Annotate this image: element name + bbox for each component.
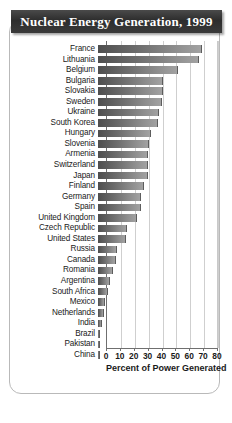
bar-category-label: Belgium: [9, 65, 98, 76]
bar-track: [98, 265, 209, 276]
bar-category-label: Bulgaria: [9, 76, 98, 87]
bar-track: [98, 65, 209, 76]
bar-row: Slovenia: [9, 139, 220, 150]
bar-track: [98, 255, 209, 266]
bar: [98, 182, 144, 190]
bar-row: Canada: [9, 255, 220, 266]
bar-row: Switzerland: [9, 160, 220, 171]
bar-track: [98, 55, 209, 66]
bar-track: [98, 118, 209, 129]
bar-track: [98, 244, 209, 255]
bar-row: Armenia: [9, 149, 220, 160]
bar-category-label: Slovenia: [9, 139, 98, 150]
bar: [98, 320, 102, 328]
bar-category-label: Armenia: [9, 149, 98, 160]
bar-category-label: China: [9, 350, 98, 361]
bar-track: [98, 213, 209, 224]
bar-row: Bulgaria: [9, 76, 220, 87]
bar-track: [98, 128, 209, 139]
bar: [98, 109, 159, 117]
bar-category-label: United Kingdom: [9, 213, 98, 224]
bar: [98, 214, 137, 222]
x-axis-tick-label: 0: [104, 351, 109, 361]
bar-track: [98, 276, 209, 287]
bar-category-label: Netherlands: [9, 308, 98, 319]
bar-row: Japan: [9, 171, 220, 182]
bar: [98, 277, 110, 285]
bar-category-label: Hungary: [9, 128, 98, 139]
x-axis-tick-label: 80: [212, 351, 221, 361]
bar-row: Germany: [9, 192, 220, 203]
bar-category-label: Canada: [9, 255, 98, 266]
bar: [98, 161, 148, 169]
bar-track: [98, 76, 209, 87]
bar: [98, 56, 199, 64]
bar: [98, 351, 100, 359]
bar: [98, 66, 178, 74]
bar-category-label: Slovakia: [9, 86, 98, 97]
bar: [98, 119, 158, 127]
bar-category-label: Switzerland: [9, 160, 98, 171]
x-axis-title: Percent of Power Generated: [106, 363, 218, 373]
bar: [98, 246, 117, 254]
bar-track: [98, 149, 209, 160]
bar-track: [98, 160, 209, 171]
bar-category-label: Romania: [9, 265, 98, 276]
chart-title-banner: Nuclear Energy Generation, 1999: [11, 10, 222, 33]
bar-row: Ukraine: [9, 107, 220, 118]
bar-row: Netherlands: [9, 308, 220, 319]
bar-category-label: Brazil: [9, 329, 98, 340]
bar: [98, 140, 149, 148]
bar-track: [98, 329, 209, 340]
bar: [98, 77, 163, 85]
bar: [98, 87, 163, 95]
bar: [98, 225, 127, 233]
bar-track: [98, 223, 209, 234]
bar-category-label: Mexico: [9, 297, 98, 308]
bar-row: South Africa: [9, 287, 220, 298]
bar-category-label: South Korea: [9, 118, 98, 129]
bar: [98, 151, 148, 159]
x-axis-tick-label: 40: [157, 351, 166, 361]
bar-category-label: Argentina: [9, 276, 98, 287]
bar: [98, 267, 113, 275]
bar-row: India: [9, 318, 220, 329]
bar-track: [98, 308, 209, 319]
bar-row: United Kingdom: [9, 213, 220, 224]
bar-category-label: United States: [9, 234, 98, 245]
bar-track: [98, 318, 209, 329]
bar: [98, 330, 100, 338]
bar-row: Belgium: [9, 65, 220, 76]
bar-track: [98, 139, 209, 150]
bar-track: [98, 44, 209, 55]
bar-track: [98, 202, 209, 213]
bar-category-label: Japan: [9, 171, 98, 182]
bar: [98, 288, 108, 296]
x-axis-tick-labels: 01020304050607080: [106, 351, 218, 363]
chart-card: Nuclear Energy Generation, 1999 FranceLi…: [0, 0, 232, 423]
bar-category-label: Germany: [9, 192, 98, 203]
bar-track: [98, 297, 209, 308]
page-title: Nuclear Energy Generation, 1999: [20, 14, 212, 30]
bar-category-label: Russia: [9, 244, 98, 255]
bar-row: Argentina: [9, 276, 220, 287]
bar-row: Brazil: [9, 329, 220, 340]
bar-track: [98, 86, 209, 97]
x-axis-tick-label: 70: [198, 351, 207, 361]
bar: [98, 298, 105, 306]
bar: [98, 309, 104, 317]
x-axis-tick-label: 50: [171, 351, 180, 361]
bar-track: [98, 181, 209, 192]
bar-row: France: [9, 44, 220, 55]
x-axis-tick-label: 10: [115, 351, 124, 361]
bar-row: Hungary: [9, 128, 220, 139]
bar-track: [98, 287, 209, 298]
bar-track: [98, 107, 209, 118]
x-axis-tick-label: 30: [143, 351, 152, 361]
bar-category-label: India: [9, 318, 98, 329]
bar-row: Finland: [9, 181, 220, 192]
bar-category-label: Spain: [9, 202, 98, 213]
bar-category-label: Pakistan: [9, 339, 98, 350]
bar-category-label: France: [9, 44, 98, 55]
chart-plot-area: FranceLithuaniaBelgiumBulgariaSlovakiaSw…: [9, 41, 220, 394]
